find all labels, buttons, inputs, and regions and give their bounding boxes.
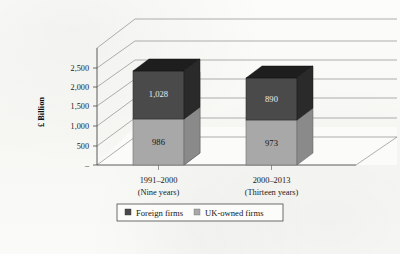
x-axis-category-labels: 1991–2000 (Nine years) 2000–2013 (Thirte…: [138, 176, 299, 197]
bar2-uk-owned-value-label: 973: [265, 138, 278, 148]
y-axis: 2,500 2,000 1,500 1,000 500 – £ Billion: [37, 48, 97, 170]
legend-label-foreign-firms[interactable]: Foreign firms: [136, 208, 184, 218]
bar1-uk-owned-value-label: 986: [152, 137, 166, 147]
stacked-column-chart-3d: 2,500 2,000 1,500 1,000 500 – £ Billion: [0, 0, 400, 254]
bar1-category-label-line2: (Nine years): [138, 188, 180, 197]
bar2-category-label-line2: (Thirteen years): [245, 188, 299, 197]
chart-figure: 2,500 2,000 1,500 1,000 500 – £ Billion: [0, 0, 400, 254]
bar1-category-label-line1: 1991–2000: [140, 176, 178, 185]
bar1-foreign-value-label: 1,028: [149, 89, 168, 99]
y-tick-label-2500: 2,500: [71, 64, 89, 73]
bar2-category-label-line1: 2000–2013: [253, 176, 291, 185]
y-tick-label-2000: 2,000: [71, 83, 89, 92]
chart-legend[interactable]: Foreign firms UK-owned firms: [117, 204, 283, 221]
y-tick-label-1500: 1,500: [71, 102, 89, 111]
bar-group-2000-2013[interactable]: 890 973: [246, 66, 313, 170]
bar-group-1991-2000[interactable]: 1,028 986: [133, 59, 200, 170]
legend-swatch-uk-owned-firms[interactable]: [194, 209, 200, 215]
legend-swatch-foreign-firms[interactable]: [125, 209, 131, 215]
legend-label-uk-owned-firms[interactable]: UK-owned firms: [205, 208, 264, 218]
y-tick-label-1000: 1,000: [71, 122, 89, 131]
gridline-depth-2500-ceiling: [97, 19, 397, 48]
bar2-foreign-value-label: 890: [265, 94, 278, 104]
y-tick-label-0: –: [84, 161, 90, 170]
y-tick-label-500: 500: [77, 142, 89, 151]
y-axis-title: £ Billion: [37, 97, 46, 127]
